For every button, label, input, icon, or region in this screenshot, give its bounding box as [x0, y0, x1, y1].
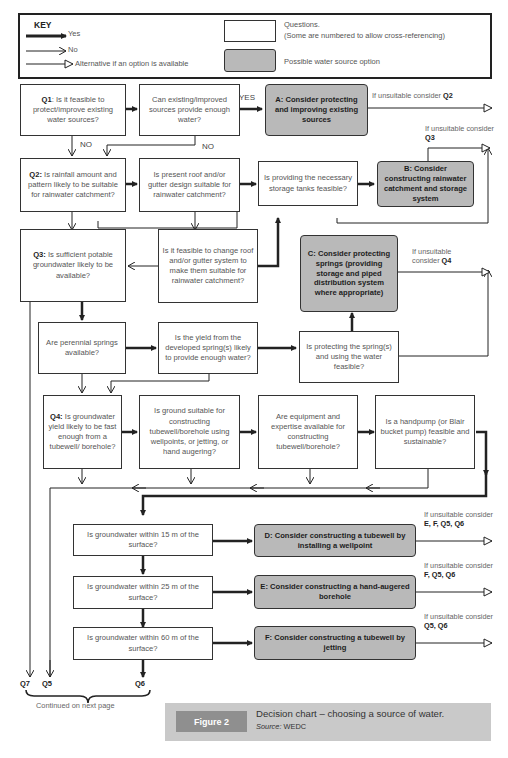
- q1-number: Q1: [42, 95, 52, 104]
- question-q1: Q1: Is it feasible to protect/improve ex…: [20, 84, 126, 136]
- question-handpump: Is a handpump (or Blair bucket pump) fea…: [375, 395, 475, 469]
- question-q4: Q4: Is groundwater yield likely to be fa…: [43, 395, 122, 469]
- caption-source: Source: WEDC: [256, 722, 306, 731]
- question-spring-yield: Is the yield from the developed spring(s…: [158, 322, 258, 374]
- option-b: B: Consider constructing rainwater catch…: [377, 161, 474, 207]
- question-gw15: Is groundwater within 15 m of the surfac…: [73, 524, 213, 556]
- note-d: If unsuitable considerE, F, Q5, Q6: [424, 510, 494, 529]
- option-a: A: Consider protecting and improving exi…: [265, 84, 368, 136]
- question-springs: Are perennial springs available?: [38, 322, 126, 374]
- option-c: C: Consider protecting springs (providin…: [300, 235, 398, 312]
- option-e: E: Consider constructing a hand-augered …: [254, 575, 416, 609]
- question-equipment: Are equipment and expertise available fo…: [258, 395, 358, 469]
- question-change-roof: Is it feasible to change roof and/or gut…: [158, 229, 258, 303]
- figure-tag: Figure 2: [176, 711, 247, 732]
- yes-label: YES: [239, 93, 255, 102]
- note-f: If unsuitable considerQ5, Q6: [424, 612, 494, 631]
- question-q3: Q3: Is sufficient potable groundwater li…: [20, 229, 126, 302]
- question-q2: Q2: Is rainfall amount and pattern likel…: [20, 158, 126, 212]
- question-storage-tanks: Is providing the necessary storage tanks…: [258, 161, 358, 206]
- continued-note: Continued on next page: [36, 701, 115, 711]
- question-text: Can existing/improved sources provide en…: [143, 95, 236, 126]
- no-label-q1: NO: [80, 140, 92, 149]
- caption-title: Decision chart – choosing a source of wa…: [256, 708, 444, 719]
- continuation-q5: Q5: [42, 679, 52, 688]
- note-b: If unsuitable consider Q3: [425, 124, 495, 143]
- note-c: If unsuitable consider Q4: [412, 247, 472, 266]
- question-gw25: Is groundwater within 25 m of the surfac…: [73, 576, 213, 609]
- continuation-q7: Q7: [20, 679, 30, 688]
- continuation-q6: Q6: [135, 679, 145, 688]
- question-roof-suitable: Is present roof and/or gutter design sui…: [139, 158, 240, 212]
- option-f: F: Consider constructing a tubewell by j…: [254, 626, 416, 660]
- question-protect-spring: Is protecting the spring(s) and using th…: [299, 331, 399, 383]
- note-e: If unsuitable considerF, Q5, Q6: [424, 561, 494, 580]
- no-label-existing: NO: [202, 142, 214, 151]
- question-gw60: Is groundwater within 60 m of the surfac…: [73, 627, 213, 660]
- option-d: D: Consider constructing a tubewell by i…: [254, 524, 416, 557]
- question-existing-enough: Can existing/improved sources provide en…: [139, 84, 240, 136]
- question-ground-suitable: Is ground suitable for constructing tube…: [139, 395, 240, 469]
- note-a: If unsuitable consider Q2: [372, 91, 453, 100]
